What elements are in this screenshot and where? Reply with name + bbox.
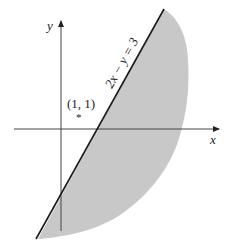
point-label: (1, 1) [67,96,95,111]
inequality-diagram: y x 2x − y = 3 (1, 1) * [0,0,235,247]
point-marker: * [76,111,82,123]
y-axis-label: y [45,18,53,33]
x-axis-label: x [209,132,216,147]
